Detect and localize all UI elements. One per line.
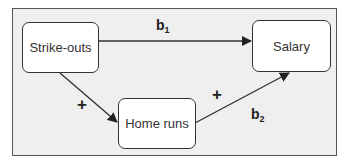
node-salary: Salary: [252, 20, 331, 72]
node-strike-outs: Strike-outs: [22, 22, 99, 73]
sign-plus-homeruns-salary: +: [212, 86, 222, 103]
label-b2: b2: [251, 107, 265, 124]
sign-plus-strikeouts-homeruns: +: [77, 96, 87, 113]
label-b1: b1: [156, 18, 170, 35]
node-strike-outs-label: Strike-outs: [29, 40, 91, 55]
node-home-runs: Home runs: [118, 98, 196, 149]
node-salary-label: Salary: [273, 39, 310, 54]
arrow-homeruns-to-salary: [195, 73, 289, 123]
arrow-strikeouts-to-homeruns: [60, 73, 117, 122]
node-home-runs-label: Home runs: [125, 116, 189, 131]
